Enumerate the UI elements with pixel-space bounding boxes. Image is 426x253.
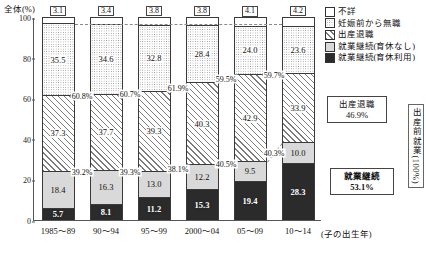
bar-top-value-fusho: 3.4 (98, 6, 114, 16)
bar-value-label: 28.4 (194, 50, 211, 59)
bar-value-label: 16.3 (98, 183, 115, 192)
bar-segment-妊娠前から無職: 32.8 (138, 25, 171, 92)
bar-segment-出産退職: 40.3 (186, 82, 219, 164)
bar-1985～89: 35.537.318.45.73.11985～89 (42, 17, 75, 220)
x-axis-label: 1985～89 (41, 224, 76, 236)
y-axis-tick: 0 (27, 217, 31, 226)
legend-swatch-taishoku (325, 30, 335, 40)
bar-segment-出産退職: 42.9 (234, 74, 267, 161)
bar-segment-就業継続(育休なし): 13.0 (138, 171, 171, 197)
chart-root: 全体(%) 02040608010035.537.318.45.73.11985… (0, 0, 426, 253)
percent-label-upper: 60.8% (71, 91, 94, 100)
bar-segment-出産退職: 37.7 (90, 94, 123, 171)
bar-value-label: 8.1 (100, 208, 113, 217)
bar-segment-出産退職: 33.9 (282, 73, 315, 142)
bar-segment-就業継続(育休なし): 18.4 (42, 171, 75, 208)
bar-segment-就業継続(育休利用): 19.4 (234, 181, 267, 220)
bar-value-label: 28.3 (290, 188, 307, 197)
bar-value-label: 15.3 (194, 201, 211, 210)
percent-label-upper: 59.7% (263, 70, 286, 79)
bar-segment-就業継続(育休利用): 15.3 (186, 189, 219, 220)
y-axis-tick: 100 (19, 14, 31, 23)
percent-label-lower: 39.3% (119, 167, 142, 176)
bar-90～94: 34.637.716.38.13.490～94 (90, 17, 123, 220)
legend-swatch-muwork (325, 18, 335, 28)
side-label-pre-birth-employment: 出産前就業(100%) (408, 104, 424, 188)
legend-item-fusho: 不詳 (325, 6, 415, 18)
bar-05～09: 24.042.99.519.44.105～09 (234, 17, 267, 220)
bar-value-label: 19.4 (242, 197, 259, 206)
bar-segment-就業継続(育休利用): 5.7 (42, 208, 75, 220)
bar-10～14: 23.633.910.028.34.210～14 (282, 17, 315, 220)
bar-value-label: 11.2 (146, 205, 162, 214)
bar-value-label: 5.7 (52, 210, 65, 219)
bar-top-value-fusho: 3.8 (146, 6, 162, 16)
percent-label-lower: 40.5% (215, 159, 238, 168)
legend: 不詳妊娠前から無職出産退職就業継続(育休なし)就業継続(育休利用) (325, 6, 415, 64)
x-axis-label: 2000～04 (185, 224, 220, 236)
bar-top-value-fusho: 4.1 (242, 6, 258, 16)
bar-segment-就業継続(育休なし): 16.3 (90, 170, 123, 203)
bar-2000～04: 28.440.312.215.33.82000～04 (186, 17, 219, 220)
bar-segment-妊娠前から無職: 23.6 (282, 26, 315, 74)
bar-segment-不詳 (90, 17, 123, 24)
callout-keizoku-title: 就業継続 (334, 171, 390, 182)
bar-top-value-fusho: 4.2 (290, 6, 306, 16)
bar-segment-就業継続(育休なし): 10.0 (282, 142, 315, 162)
x-axis-label: 95～99 (141, 224, 167, 236)
legend-label-keizoku_i: 就業継続(育休利用) (338, 52, 416, 64)
legend-item-muwork: 妊娠前から無職 (325, 18, 415, 30)
legend-swatch-fusho (325, 7, 335, 17)
bar-segment-就業継続(育休利用): 11.2 (138, 197, 171, 220)
bar-value-label: 13.0 (146, 180, 163, 189)
bar-segment-妊娠前から無職: 28.4 (186, 25, 219, 83)
x-axis-label: 10～14 (285, 224, 311, 236)
y-axis-tick: 20 (23, 176, 31, 185)
connector-line-top (75, 24, 282, 25)
legend-swatch-keizoku_n (325, 42, 335, 52)
legend-item-keizoku_n: 就業継続(育休なし) (325, 41, 415, 53)
bar-value-label: 32.8 (146, 54, 163, 63)
x-axis-label: 90～94 (93, 224, 119, 236)
bar-segment-出産退職: 37.3 (42, 95, 75, 171)
bar-95～99: 32.839.313.011.23.895～99 (138, 17, 171, 220)
bar-segment-就業継続(育休なし): 12.2 (186, 164, 219, 189)
bar-value-label: 10.0 (290, 149, 307, 158)
x-axis-label: 05～09 (237, 224, 263, 236)
callout-taishoku-value: 46.9% (331, 110, 383, 121)
bar-value-label: 39.3 (146, 127, 163, 136)
bar-value-label: 42.9 (242, 114, 259, 123)
bar-segment-妊娠前から無職: 34.6 (90, 24, 123, 94)
y-axis-tick: 40 (23, 135, 31, 144)
callout-taishoku: 出産退職 46.9% (327, 96, 387, 123)
plot-area: 02040608010035.537.318.45.73.11985～8934.… (33, 18, 321, 221)
bar-segment-就業継続(育休利用): 28.3 (282, 163, 315, 220)
bar-value-label: 9.5 (244, 167, 257, 176)
legend-label-keizoku_n: 就業継続(育休なし) (338, 41, 416, 53)
y-axis-title: 全体(%) (4, 2, 35, 14)
bar-segment-不詳 (282, 17, 315, 26)
callout-taishoku-title: 出産退職 (331, 99, 383, 110)
legend-label-taishoku: 出産退職 (338, 29, 374, 41)
legend-item-keizoku_i: 就業継続(育休利用) (325, 52, 415, 64)
bar-value-label: 24.0 (242, 46, 259, 55)
bar-top-value-fusho: 3.8 (194, 6, 210, 16)
legend-swatch-keizoku_i (325, 53, 335, 63)
legend-label-fusho: 不詳 (338, 6, 356, 18)
callout-keizoku-value: 53.1% (334, 182, 390, 193)
percent-label-lower: 39.2% (71, 167, 94, 176)
legend-label-muwork: 妊娠前から無職 (338, 18, 401, 30)
bar-value-label: 34.6 (98, 55, 115, 64)
bar-segment-就業継続(育休利用): 8.1 (90, 204, 123, 220)
bar-value-label: 37.3 (50, 129, 67, 138)
bar-segment-妊娠前から無職: 24.0 (234, 26, 267, 75)
bar-value-label: 37.7 (98, 128, 115, 137)
legend-item-taishoku: 出産退職 (325, 29, 415, 41)
bar-value-label: 35.5 (50, 56, 67, 65)
bar-value-label: 12.2 (194, 173, 211, 182)
percent-label-upper: 59.5% (215, 75, 238, 84)
percent-label-lower: 40.3% (263, 148, 286, 157)
bar-segment-出産退職: 39.3 (138, 91, 171, 171)
bar-top-value-fusho: 3.1 (50, 6, 66, 16)
bar-value-label: 40.3 (194, 120, 211, 129)
